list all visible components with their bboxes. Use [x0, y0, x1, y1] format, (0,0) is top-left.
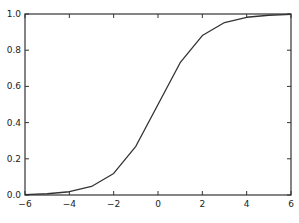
x-tick-label: 0: [155, 199, 161, 209]
x-tick-label: −2: [107, 199, 120, 209]
y-tick-label: 0.2: [7, 154, 21, 164]
x-tick-label: 4: [244, 199, 250, 209]
x-tick-label: 2: [199, 199, 205, 209]
x-tick-label: −4: [63, 199, 77, 209]
sigmoid-curve: [25, 14, 291, 194]
y-tick-label: 1.0: [7, 9, 22, 19]
y-tick-label: 0.6: [7, 81, 22, 91]
x-tick-label: 6: [288, 199, 294, 209]
y-tick-label: 0.4: [7, 118, 22, 128]
line-chart: −6−4−20246 0.00.20.40.60.81.0: [0, 0, 299, 223]
y-axis: 0.00.20.40.60.81.0: [7, 9, 291, 200]
y-tick-label: 0.0: [7, 190, 22, 200]
series-line-sigmoid: [25, 14, 291, 194]
x-axis: −6−4−20246: [18, 14, 294, 209]
x-tick-label: −6: [18, 199, 32, 209]
y-tick-label: 0.8: [7, 45, 22, 55]
